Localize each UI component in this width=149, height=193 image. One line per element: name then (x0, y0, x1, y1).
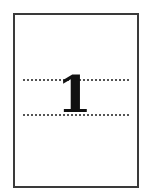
page-numeral: 1 (0, 70, 149, 120)
